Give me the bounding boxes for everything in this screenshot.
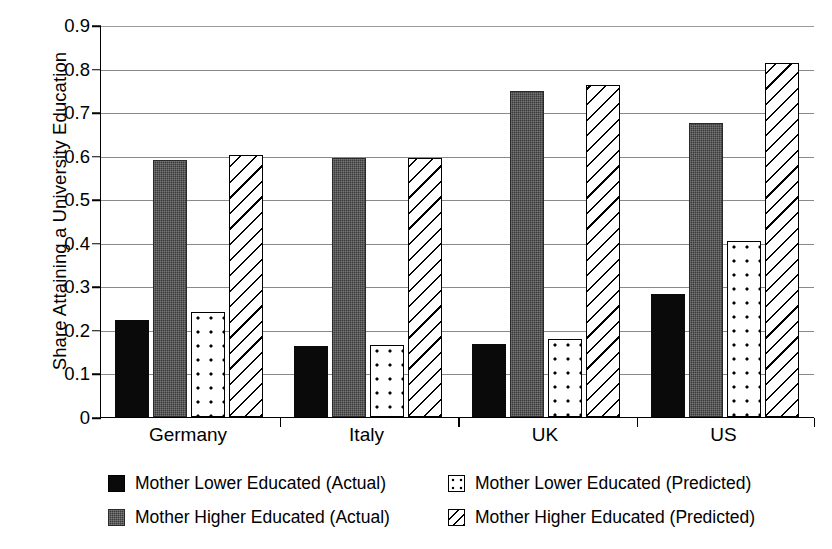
legend-item: Mother Higher Educated (Actual) (108, 507, 448, 528)
x-axis-tick-mark (637, 418, 639, 427)
legend-item: Mother Lower Educated (Actual) (108, 473, 448, 494)
bar (370, 345, 404, 417)
bar (332, 158, 366, 417)
bar (153, 160, 187, 417)
legend-swatch-gray-icon (108, 509, 125, 526)
bar (115, 320, 149, 417)
legend-item: Mother Higher Educated (Predicted) (448, 507, 808, 528)
legend-label: Mother Lower Educated (Actual) (135, 473, 386, 494)
y-axis-tick-label: 0.1 (30, 363, 90, 385)
x-axis-category-label: Germany (149, 424, 227, 446)
legend-swatch-black-icon (108, 475, 125, 492)
y-axis-tick-label: 0.5 (30, 189, 90, 211)
legend-label: Mother Lower Educated (Predicted) (475, 473, 751, 494)
y-axis-tick-label: 0.6 (30, 146, 90, 168)
y-axis-tick-label: 0.9 (30, 15, 90, 37)
x-axis-tick-mark (814, 418, 816, 427)
y-axis-tick-label: 0.4 (30, 233, 90, 255)
gridline (101, 26, 814, 27)
x-axis-tick-mark (458, 418, 460, 427)
gridline (101, 113, 814, 114)
legend-swatch-dotted-icon (448, 475, 465, 492)
bar (765, 63, 799, 417)
x-axis-category-label: UK (532, 424, 558, 446)
gridline (101, 70, 814, 71)
bar (651, 294, 685, 417)
y-axis-tick-label: 0.7 (30, 102, 90, 124)
bar (510, 91, 544, 417)
chart-legend: Mother Lower Educated (Actual)Mother Low… (108, 466, 808, 534)
x-axis-category-label: Italy (349, 424, 384, 446)
legend-item: Mother Lower Educated (Predicted) (448, 473, 808, 494)
bar (191, 312, 225, 417)
bar (548, 339, 582, 417)
bar (472, 344, 506, 417)
bar (294, 346, 328, 417)
x-axis-category-label: US (710, 424, 736, 446)
bar-chart: Share Attaining a University Education 0… (0, 0, 832, 549)
y-axis-tick-label: 0.8 (30, 59, 90, 81)
plot-area (100, 26, 814, 418)
bar (586, 85, 620, 417)
y-axis-tick-label: 0.3 (30, 276, 90, 298)
legend-swatch-hatched-icon (448, 509, 465, 526)
y-axis-tick-label: 0.2 (30, 320, 90, 342)
bar (689, 123, 723, 417)
bar (727, 241, 761, 417)
bar (229, 155, 263, 417)
bar (408, 158, 442, 417)
legend-label: Mother Higher Educated (Actual) (135, 507, 390, 528)
y-axis-tick-label: 0 (30, 407, 90, 429)
x-axis-tick-mark (280, 418, 282, 427)
legend-label: Mother Higher Educated (Predicted) (475, 507, 755, 528)
